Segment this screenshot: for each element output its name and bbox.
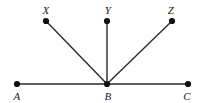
label-a: A (14, 91, 21, 102)
point-a (14, 81, 20, 87)
label-y: Y (105, 5, 111, 16)
segments-group (17, 21, 188, 84)
label-z: Z (168, 5, 174, 16)
point-b (104, 81, 110, 87)
point-x (43, 18, 49, 24)
label-c: C (183, 91, 191, 102)
geometry-figure: XYZABC (0, 0, 197, 103)
point-z (169, 18, 175, 24)
point-y (104, 18, 110, 24)
segment-bz (107, 21, 172, 84)
label-b: B (105, 91, 112, 102)
label-x: X (43, 5, 50, 16)
segment-bx (46, 21, 107, 84)
point-c (185, 81, 191, 87)
